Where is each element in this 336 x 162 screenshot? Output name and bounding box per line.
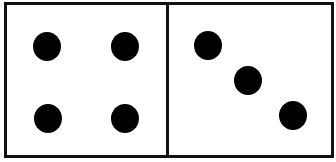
domino-right-half-three <box>169 5 331 155</box>
pip-icon <box>33 32 61 61</box>
pip-icon <box>279 101 307 130</box>
pip-icon <box>34 104 62 133</box>
pip-icon <box>194 31 222 60</box>
pip-icon <box>111 32 139 61</box>
domino-left-half-four <box>7 5 166 155</box>
pip-icon <box>234 66 262 95</box>
domino-tile <box>4 2 334 158</box>
pip-icon <box>111 104 139 133</box>
